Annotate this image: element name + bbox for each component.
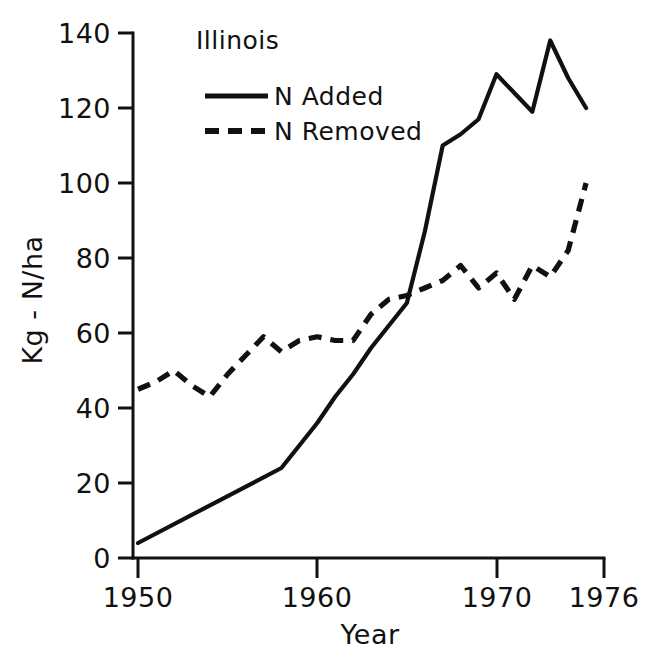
chart-figure: 140 120 100 80 60 40 20 0 1950 1960 1970… — [0, 0, 662, 652]
legend-label-n-removed: N Removed — [274, 117, 422, 146]
chart-legend: N Added N Removed — [205, 82, 422, 146]
x-tick-label-1970: 1970 — [462, 582, 533, 613]
y-axis-title: Kg - N/ha — [17, 235, 48, 364]
y-tick-label-100: 100 — [58, 168, 111, 199]
x-tick-label-1976: 1976 — [569, 582, 640, 613]
y-tick-label-80: 80 — [76, 243, 111, 274]
y-tick-label-60: 60 — [76, 318, 111, 349]
line-chart-plot: 140 120 100 80 60 40 20 0 1950 1960 1970… — [0, 0, 662, 652]
y-tick-labels: 140 120 100 80 60 40 20 0 — [58, 18, 111, 574]
x-axis-title: Year — [339, 619, 400, 650]
legend-label-n-added: N Added — [274, 82, 384, 111]
y-tick-label-40: 40 — [76, 393, 111, 424]
x-tick-labels: 1950 1960 1970 1976 — [103, 582, 640, 613]
y-tick-label-0: 0 — [93, 543, 111, 574]
y-tick-label-120: 120 — [58, 93, 111, 124]
x-axis-ticks — [138, 558, 604, 578]
x-tick-label-1960: 1960 — [282, 582, 353, 613]
y-tick-label-140: 140 — [58, 18, 111, 49]
y-axis-ticks — [118, 33, 133, 558]
x-tick-label-1950: 1950 — [103, 582, 174, 613]
plot-annotation-region: Illinois — [196, 26, 279, 55]
y-tick-label-20: 20 — [76, 468, 111, 499]
